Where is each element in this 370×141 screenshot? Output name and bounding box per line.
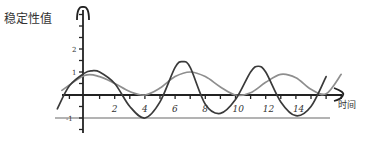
x-tick-label: 12 <box>263 104 275 114</box>
x-tick-label: 4 <box>141 104 148 114</box>
x-tick-label: 6 <box>172 104 178 114</box>
y-axis: 21-1 <box>66 7 89 133</box>
y-axis-label-text: 稳定性值 <box>4 11 52 26</box>
y-axis-label: 稳定性值 <box>4 11 52 26</box>
x-axis-label: 时间 <box>338 99 356 110</box>
x-axis-label-text: 时间 <box>338 99 356 110</box>
y-tick-label: -1 <box>66 115 73 123</box>
y-tick-label: 1 <box>72 69 76 77</box>
series-line <box>57 62 326 119</box>
x-tick-label: 2 <box>111 104 118 114</box>
y-ticks: 21-1 <box>66 15 83 130</box>
y-tick-label: 2 <box>72 46 76 54</box>
series-line <box>62 72 341 95</box>
x-tick-label: 14 <box>293 104 305 114</box>
x-tick-label: 10 <box>233 104 245 114</box>
chart: 稳定性值 时间 21-1 2468101214 <box>0 0 370 141</box>
